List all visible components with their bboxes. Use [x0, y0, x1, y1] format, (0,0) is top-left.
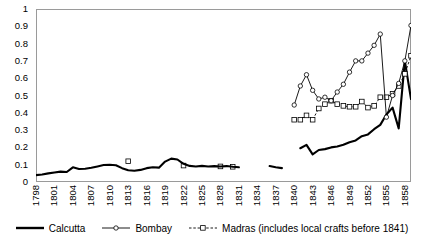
legend-swatch-line-icon: [15, 222, 45, 234]
legend-swatch-square-icon: [188, 222, 218, 234]
legend-label: Bombay: [135, 223, 172, 234]
x-tick-label: 1816: [142, 185, 152, 206]
x-tick-label: 1837: [271, 185, 281, 206]
x-tick-label: 1822: [179, 185, 189, 206]
y-tick-label: 0.8: [2, 39, 28, 49]
x-tick-label: 1843: [308, 185, 318, 206]
x-tick-label: 1855: [381, 185, 391, 206]
y-tick-label: 0.2: [2, 142, 28, 152]
y-tick-label: 0: [2, 177, 28, 187]
legend-label: Calcutta: [49, 223, 86, 234]
x-tick-label: 1846: [326, 185, 336, 206]
x-tick-label: 1828: [215, 185, 225, 206]
x-tick-label: 1810: [105, 185, 115, 206]
y-tick-label: 0.3: [2, 125, 28, 135]
y-tick-label: 0.7: [2, 56, 28, 66]
y-tick-label: 0.5: [2, 91, 28, 101]
x-tick-label: 1813: [123, 185, 133, 206]
y-tick-label: 0.6: [2, 73, 28, 83]
y-tick-label: 0.4: [2, 108, 28, 118]
legend-item[interactable]: Bombay: [101, 222, 172, 234]
y-tick-label: 0.1: [2, 160, 28, 170]
plot-series-layer: [36, 9, 411, 182]
y-tick-label: 1: [2, 4, 28, 14]
legend-swatch-circle-icon: [101, 222, 131, 234]
x-tick-label: 1804: [68, 185, 78, 206]
x-tick-label: 1849: [345, 185, 355, 206]
legend-label: Madras (includes local crafts before 184…: [222, 223, 408, 234]
x-tick-label: 1801: [49, 185, 59, 206]
x-tick-label: 1825: [197, 185, 207, 206]
x-tick-label: 1858: [400, 185, 410, 206]
x-tick-label: 1852: [363, 185, 373, 206]
legend-item[interactable]: Calcutta: [15, 222, 86, 234]
y-tick-label: 0.9: [2, 21, 28, 31]
x-tick-label: 1807: [86, 185, 96, 206]
x-tick-label: 1819: [160, 185, 170, 206]
legend-item[interactable]: Madras (includes local crafts before 184…: [188, 222, 408, 234]
x-tick-label: 1798: [31, 185, 41, 206]
x-tick-label: 1840: [289, 185, 299, 206]
chart-container: 00.10.20.30.40.50.60.70.80.91 1798180118…: [0, 0, 423, 241]
chart-legend: CalcuttaBombayMadras (includes local cra…: [0, 216, 423, 240]
x-tick-label: 1834: [252, 185, 262, 206]
x-tick-label: 1831: [234, 185, 244, 206]
